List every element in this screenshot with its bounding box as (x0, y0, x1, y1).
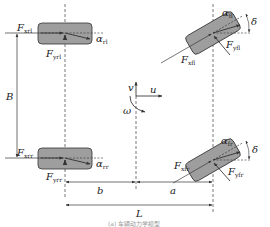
alpha-label-fr: αfr (221, 135, 233, 147)
longitudinal-dimensions: b a L (66, 182, 212, 219)
wheel-rear-right: Fxrr Fyrr αrr (16, 147, 109, 184)
yaw-rate-arrow (130, 96, 145, 112)
fx-label-fl: Fxfl (180, 54, 195, 66)
tire-rear-left (38, 23, 92, 44)
fy-label-fl: Fyfl (225, 39, 240, 52)
b-label: b (97, 185, 103, 196)
steer-label-fr: δ (252, 144, 258, 155)
fy-label-fr: Fyfr (227, 166, 244, 179)
steer-angle-arc-fl (246, 14, 249, 32)
v-label: v (128, 82, 134, 93)
track-width-dimension: B (5, 33, 38, 158)
u-label: u (150, 84, 156, 95)
fx-label-rr: Fxrr (16, 147, 33, 159)
vehicle-dynamics-diagram: B Fxrl Fyrl αrl Fxrr Fyrr αrr δ αfl (0, 0, 270, 227)
figure-caption: (a) 车辆动力学模型 (108, 220, 160, 227)
L-label: L (135, 208, 143, 219)
fy-label-rl: Fyrl (45, 48, 61, 61)
tire-rear-right (38, 148, 92, 169)
wheel-front-right: δ αfr Fyfr Fxfr (168, 134, 258, 192)
omega-label: ω (123, 105, 131, 116)
a-label: a (170, 185, 176, 196)
fx-label-fr: Fxfr (173, 160, 190, 172)
alpha-label-fl: αfl (222, 7, 233, 19)
wheel-rear-left: Fxrl Fyrl αrl (16, 22, 108, 61)
steer-label-fl: δ (251, 16, 257, 27)
track-width-label: B (5, 91, 13, 102)
wheel-front-left: δ αfl Fyfl Fxfl (156, 7, 257, 72)
fx-label-rl: Fxrl (16, 22, 32, 34)
steer-angle-arc-fr (246, 141, 249, 159)
alpha-label-rr: αrr (96, 158, 109, 170)
cg-coordinate-system: v u ω (123, 82, 162, 116)
alpha-label-rl: αrl (96, 33, 108, 45)
fy-label-rr: Fyrr (45, 171, 62, 184)
